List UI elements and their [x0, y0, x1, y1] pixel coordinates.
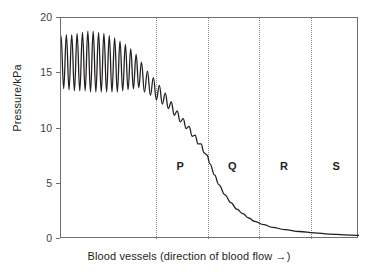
- pressure-curve-path: [61, 31, 359, 235]
- y-tick-label-20: 20: [26, 12, 52, 22]
- y-axis-title: Pressure/kPa: [11, 43, 23, 153]
- x-axis-title: Blood vessels (direction of blood flow →…: [0, 250, 378, 262]
- y-tick-label-15: 15: [26, 67, 52, 77]
- pressure-curve: [61, 18, 359, 239]
- y-tick-label-10: 10: [26, 123, 52, 133]
- y-tick-label-5: 5: [26, 178, 52, 188]
- plot-area: PQRS: [60, 17, 358, 238]
- chart-container: Pressure/kPa 20151050 PQRS Blood vessels…: [0, 0, 378, 272]
- y-tick-mark-0: [56, 238, 60, 239]
- y-tick-label-0: 0: [26, 233, 52, 243]
